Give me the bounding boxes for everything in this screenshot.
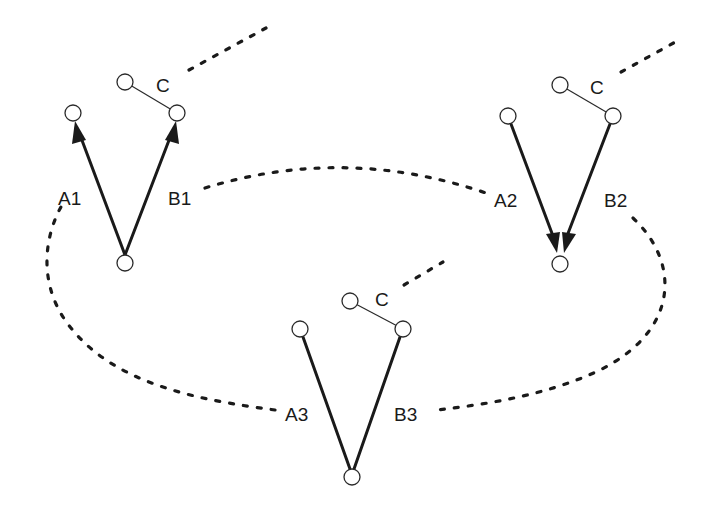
group-1: A1 B1 C xyxy=(58,28,266,271)
arrowhead-a2-icon xyxy=(546,232,560,253)
dotted-line-c1 xyxy=(189,28,266,70)
edge-b1 xyxy=(125,135,171,255)
dotted-line-c3 xyxy=(404,262,443,285)
label-c3: C xyxy=(375,289,389,310)
edge-b3 xyxy=(354,337,400,469)
node-c1[interactable] xyxy=(117,74,133,90)
node-a2-tail[interactable] xyxy=(500,108,516,124)
node-2-root[interactable] xyxy=(552,256,568,272)
label-b3: B3 xyxy=(394,404,417,425)
node-3-root[interactable] xyxy=(344,469,360,485)
node-b3-tip[interactable] xyxy=(395,321,411,337)
arrowhead-b1-icon xyxy=(165,121,179,144)
group-3: A3 B3 C xyxy=(285,262,443,485)
label-b1: B1 xyxy=(168,188,191,209)
label-a1: A1 xyxy=(58,188,81,209)
diagram-canvas: A1 B1 C A2 B2 C A3 B3 C xyxy=(0,0,706,516)
edge-b2 xyxy=(567,124,610,236)
node-a3-tip[interactable] xyxy=(292,321,308,337)
node-1-root[interactable] xyxy=(117,255,133,271)
node-c3[interactable] xyxy=(342,293,358,309)
label-c2: C xyxy=(590,77,604,98)
dotted-connection-b1-a2 xyxy=(205,168,486,193)
node-c2[interactable] xyxy=(552,77,568,93)
node-b1-tip[interactable] xyxy=(169,105,185,121)
edge-a2 xyxy=(511,124,553,236)
label-c1: C xyxy=(156,75,170,96)
edge-c2-link xyxy=(560,85,613,116)
label-b2: B2 xyxy=(604,190,627,211)
label-a2: A2 xyxy=(494,190,517,211)
edge-a1 xyxy=(80,135,125,255)
label-a3: A3 xyxy=(285,404,308,425)
dotted-connection-a3-a1 xyxy=(47,205,275,410)
dotted-connection-b2-b3 xyxy=(437,218,665,410)
edge-a3 xyxy=(303,337,350,469)
node-b2-tail[interactable] xyxy=(605,108,621,124)
arrowhead-b2-icon xyxy=(562,232,576,253)
group-2: A2 B2 C xyxy=(494,40,679,272)
dotted-line-c2 xyxy=(621,40,679,72)
arrowhead-a1-icon xyxy=(72,121,86,144)
node-a1-tip[interactable] xyxy=(65,105,81,121)
